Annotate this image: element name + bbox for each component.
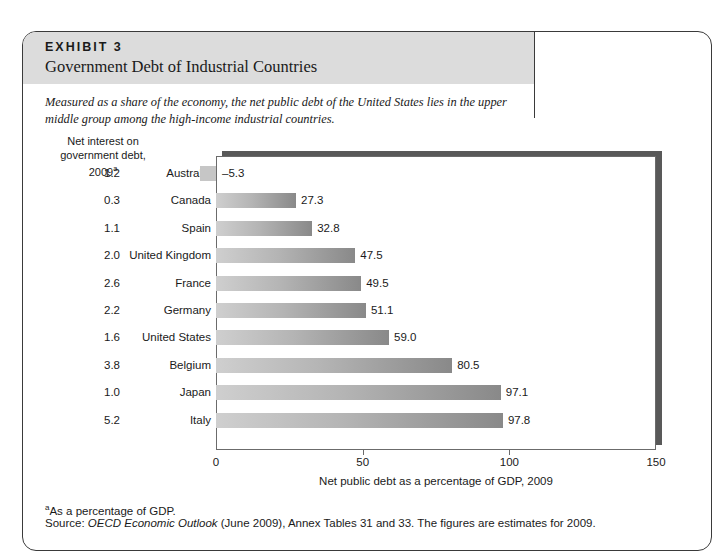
- bar-value-label: 51.1: [371, 297, 393, 324]
- bar: [216, 193, 296, 208]
- bar-value-label: 32.8: [317, 215, 339, 242]
- x-axis-tick: [363, 450, 364, 455]
- bar: [216, 358, 452, 373]
- chart-row: 2.0United Kingdom47.5: [23, 242, 712, 269]
- interest-value: 1.1: [68, 215, 120, 242]
- x-axis-tick-label: 150: [646, 456, 665, 468]
- bar-value-label: –5.3: [222, 160, 244, 187]
- country-label: Australia: [123, 160, 211, 187]
- interest-value: 3.8: [68, 352, 120, 379]
- bar: [216, 330, 389, 345]
- country-label: Japan: [123, 379, 211, 406]
- exhibit-frame: EXHIBIT 3 Government Debt of Industrial …: [22, 31, 712, 551]
- interest-heading-line1: Net interest on: [67, 135, 139, 147]
- country-label: Canada: [123, 187, 211, 214]
- x-axis-title: Net public debt as a percentage of GDP, …: [216, 475, 656, 487]
- bar: [216, 413, 503, 428]
- chart-row: 1.1Spain32.8: [23, 215, 712, 242]
- country-label: Spain: [123, 215, 211, 242]
- x-axis-tick-label: 50: [356, 456, 369, 468]
- country-label: Italy: [123, 407, 211, 434]
- country-label: Belgium: [123, 352, 211, 379]
- bar-value-label: 80.5: [457, 352, 479, 379]
- interest-value: 5.2: [68, 407, 120, 434]
- interest-value: 2.0: [68, 242, 120, 269]
- bar-value-label: 97.8: [508, 407, 530, 434]
- interest-value: 1.0: [68, 379, 120, 406]
- bar: [200, 166, 216, 181]
- interest-value: 0.3: [68, 187, 120, 214]
- interest-value: 2.2: [68, 297, 120, 324]
- bar: [216, 248, 355, 263]
- country-label: United States: [123, 324, 211, 351]
- country-label: France: [123, 270, 211, 297]
- bar-value-label: 97.1: [506, 379, 528, 406]
- country-label: Germany: [123, 297, 211, 324]
- x-axis-tick-label: 100: [500, 456, 519, 468]
- bar-value-label: 49.5: [366, 270, 388, 297]
- chart-row: 5.2Italy97.8: [23, 407, 712, 434]
- chart-row: 1.6United States59.0: [23, 324, 712, 351]
- bar-value-label: 27.3: [301, 187, 323, 214]
- source-rest: (June 2009), Annex Tables 31 and 33. The…: [218, 517, 596, 529]
- chart-row: 1.2Australia–5.3: [23, 160, 712, 187]
- interest-value: 1.2: [68, 160, 120, 187]
- chart-row: 1.0Japan97.1: [23, 379, 712, 406]
- bar: [216, 385, 501, 400]
- interest-value: 1.6: [68, 324, 120, 351]
- chart-row: 0.3Canada27.3: [23, 187, 712, 214]
- bar: [216, 303, 366, 318]
- interest-value: 2.6: [68, 270, 120, 297]
- country-label: United Kingdom: [123, 242, 211, 269]
- bar-value-label: 59.0: [394, 324, 416, 351]
- chart-row: 2.2Germany51.1: [23, 297, 712, 324]
- chart-figure: Net interest on government debt, 2009a 1…: [23, 32, 712, 552]
- chart-row: 2.6France49.5: [23, 270, 712, 297]
- bar-value-label: 47.5: [360, 242, 382, 269]
- interest-heading-line2: government debt,: [60, 149, 146, 161]
- x-axis-tick: [509, 450, 510, 455]
- x-axis-tick-label: 0: [213, 456, 219, 468]
- source-note: Source: OECD Economic Outlook (June 2009…: [45, 516, 596, 532]
- bar: [216, 276, 361, 291]
- chart-row: 3.8Belgium80.5: [23, 352, 712, 379]
- source-publication: OECD Economic Outlook: [88, 517, 218, 529]
- bar: [216, 221, 312, 236]
- source-prefix: Source:: [45, 517, 88, 529]
